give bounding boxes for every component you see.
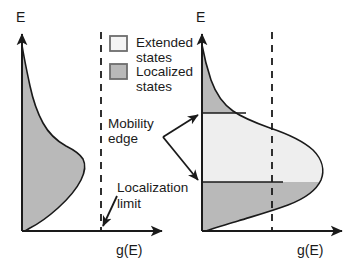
mobility-edge-label-line1: Mobility <box>108 116 154 131</box>
left-y-axis-label: E <box>16 9 25 25</box>
localization-limit-arrow <box>103 196 117 226</box>
right-y-axis-label: E <box>196 9 205 25</box>
localization-limit-label-line2: limit <box>117 196 141 211</box>
legend-swatch-localized <box>110 64 127 79</box>
legend-label-localized-line2: states <box>136 79 172 94</box>
left-dos-area-localized <box>22 45 85 231</box>
right-panel: E g(E) <box>196 9 342 258</box>
legend-label-extended-line1: Extended <box>136 35 193 50</box>
mobility-edge-arrow-lower <box>163 137 198 180</box>
dos-mobility-edge-figure: E g(E) E g(E) Exten <box>0 0 353 266</box>
legend: Extended states Localized states <box>110 35 193 94</box>
annotation-localization-limit: Localization limit <box>103 180 188 226</box>
legend-label-extended-line2: states <box>136 50 172 65</box>
legend-label-localized-line1: Localized <box>136 64 193 79</box>
right-x-axis-label: g(E) <box>297 242 323 258</box>
mobility-edge-label-line2: edge <box>108 131 138 146</box>
mobility-edge-arrow-upper <box>163 115 198 137</box>
left-x-axis-label: g(E) <box>116 242 142 258</box>
legend-swatch-extended <box>110 36 127 51</box>
localization-limit-label-line1: Localization <box>117 180 188 195</box>
annotation-mobility-edge: Mobility edge <box>108 115 198 180</box>
